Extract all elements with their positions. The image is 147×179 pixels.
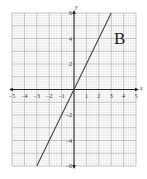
x-tick-label: −5 bbox=[9, 93, 15, 99]
x-tick-label: −2 bbox=[46, 93, 52, 99]
x-axis-label: x bbox=[139, 85, 143, 91]
x-tick-label: 3 bbox=[110, 93, 113, 99]
x-tick-label: −4 bbox=[21, 93, 27, 99]
x-tick-label: 4 bbox=[122, 93, 125, 99]
y-tick-label: −4 bbox=[66, 138, 72, 144]
graph-label: B bbox=[114, 29, 125, 48]
coordinate-graph: −5−4−3−2−112345642−2−4−6 B x y bbox=[0, 0, 147, 179]
y-axis-label: y bbox=[74, 4, 78, 10]
y-tick-label: −6 bbox=[66, 163, 72, 169]
x-tick-label: 2 bbox=[97, 93, 100, 99]
x-tick-label: 5 bbox=[135, 93, 138, 99]
x-tick-label: −1 bbox=[58, 93, 64, 99]
x-tick-label: −3 bbox=[34, 93, 40, 99]
x-tick-label: 1 bbox=[85, 93, 88, 99]
y-tick-label: −2 bbox=[66, 112, 72, 118]
y-tick-label: 2 bbox=[69, 61, 72, 67]
y-tick-label: 6 bbox=[69, 10, 72, 16]
y-tick-label: 4 bbox=[69, 36, 72, 42]
